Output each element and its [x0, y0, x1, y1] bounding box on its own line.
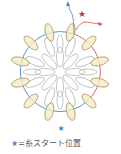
blue-star-icon: ★ — [57, 124, 64, 133]
blue-arrow-icon — [66, 1, 70, 6]
red-arrow-icon — [98, 22, 103, 26]
red-thread-tail — [76, 22, 100, 30]
motif-diagram: ★ ★ — [0, 0, 121, 135]
legend-text: =糸スタート位置 — [18, 139, 81, 148]
legend: ★=糸スタート位置 — [11, 139, 81, 149]
red-star-icon: ★ — [78, 9, 86, 19]
outer-petals — [11, 23, 110, 122]
